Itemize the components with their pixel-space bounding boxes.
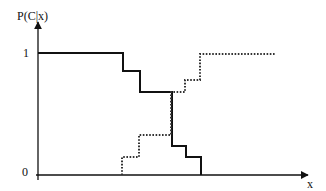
y-tick-one: 1	[23, 47, 29, 59]
y-axis-label: P(C|x)	[17, 10, 48, 22]
y-tick-zero: 0	[22, 166, 28, 178]
step-chart	[0, 0, 326, 191]
x-axis-label: x	[307, 178, 313, 190]
series-solid	[38, 53, 201, 175]
